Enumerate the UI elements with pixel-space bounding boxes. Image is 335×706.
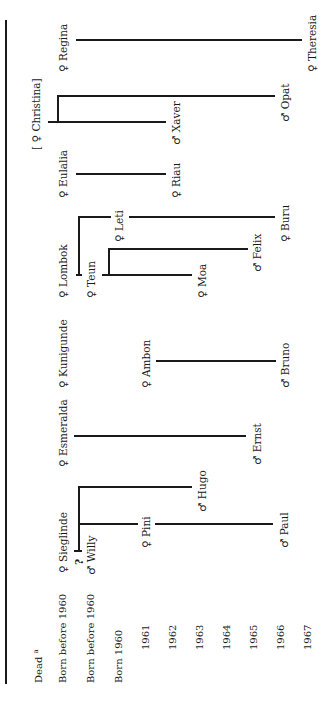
person-pini: ♀ Pini xyxy=(140,516,152,548)
person-teun: ♀ Teun xyxy=(85,261,97,298)
person-christina: [ ♀ Christina] xyxy=(30,78,42,150)
row-label-born-1960: Born 1960 xyxy=(113,630,125,683)
person-sieglinde: ♀ Sieglinde xyxy=(57,512,69,573)
row-label-1962: 1962 xyxy=(167,625,179,650)
line-leti-buru xyxy=(129,216,275,218)
row-label-1967: 1967 xyxy=(302,625,314,650)
row-label-1966: 1966 xyxy=(275,625,287,650)
row-label-dead: Dead a xyxy=(30,649,45,683)
person-eulalia: ♀ Eulalia xyxy=(57,150,69,198)
person-paul: ♂ Paul xyxy=(278,512,290,548)
line-lombok-branch xyxy=(78,216,80,275)
row-label-born-before-1960: Born before 1960 xyxy=(57,594,69,683)
line-christina-branch xyxy=(57,95,59,122)
line-teun-branch xyxy=(108,248,110,275)
person-xaver: ♂ Xaver xyxy=(170,101,182,145)
person-ernst: ♂ Ernst xyxy=(251,423,263,465)
line-lombok-stub xyxy=(76,274,82,276)
line-sieglinde-branch xyxy=(78,486,80,551)
row-label-1961: 1961 xyxy=(140,625,152,650)
line-lombok-leti xyxy=(78,216,111,218)
line-teun-moa xyxy=(102,274,192,276)
line-christina-xaver xyxy=(48,121,166,123)
line-sieglinde-pini xyxy=(78,523,138,525)
person-opat: ♂ Opat xyxy=(279,83,291,122)
person-buru: ♀ Buru xyxy=(279,205,291,242)
person-willy: ♂ Willy xyxy=(85,536,97,575)
person-riau: ♀ Riau xyxy=(170,163,182,198)
table-border-line xyxy=(5,20,7,684)
line-eulalia-riau xyxy=(76,173,166,175)
person-ambon: ♀ Ambon xyxy=(140,340,152,388)
line-regina-theresia xyxy=(76,39,302,41)
line-sieglinde-willy-stub xyxy=(74,550,82,552)
uncertain-mark: ? xyxy=(73,559,85,565)
person-regina: ♀ Regina xyxy=(57,24,69,72)
line-esmeralda-ernst xyxy=(74,435,246,437)
line-teun-felix xyxy=(108,248,248,250)
person-moa: ♀ Moa xyxy=(196,264,208,298)
row-label-1964: 1964 xyxy=(221,625,233,650)
person-felix: ♂ Felix xyxy=(251,234,263,272)
person-leti: ♀ Leti xyxy=(113,210,125,242)
line-sieglinde-hugo xyxy=(78,486,192,488)
person-hugo: ♂ Hugo xyxy=(196,470,208,512)
person-lombok: ♀ Lombok xyxy=(57,244,69,298)
line-ambon-bruno xyxy=(156,360,276,362)
row-label-1963: 1963 xyxy=(194,625,206,650)
person-esmeralda: ♀ Esmeralda xyxy=(57,399,69,467)
line-christina-opat xyxy=(57,95,275,97)
row-label-1965: 1965 xyxy=(248,625,260,650)
person-kunigunde: ♀ Kunigunde xyxy=(57,319,69,388)
line-pini-paul xyxy=(155,523,273,525)
row-label-born-before-1960-2: Born before 1960 xyxy=(85,594,97,683)
person-theresia: ♀ Theresia xyxy=(306,15,318,72)
person-bruno: ♂ Bruno xyxy=(279,343,291,388)
